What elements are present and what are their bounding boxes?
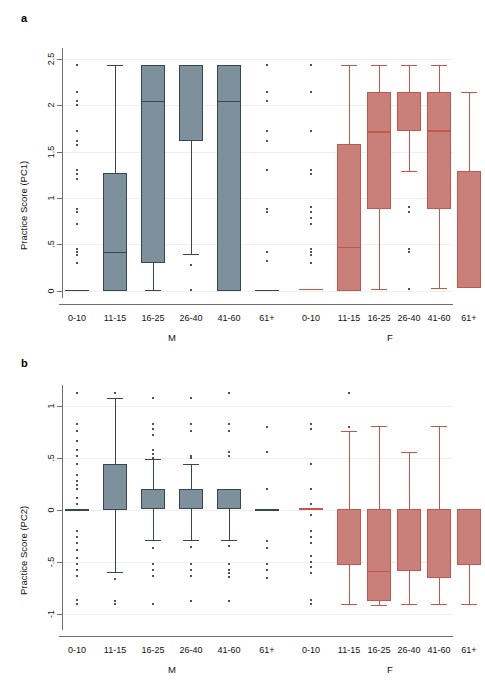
- panel-a-label: a: [21, 12, 27, 24]
- outlier-point: [76, 530, 78, 532]
- outlier-point: [76, 440, 78, 442]
- whisker-cap-lower: [401, 171, 417, 172]
- outlier-point: [76, 430, 78, 432]
- outlier-point: [152, 428, 154, 430]
- group-label: M: [152, 664, 192, 675]
- whisker-cap-lower: [431, 288, 447, 289]
- outlier-point: [228, 576, 230, 578]
- whisker-lower: [115, 510, 116, 572]
- outlier-point: [310, 463, 312, 465]
- outlier-point: [76, 223, 78, 225]
- outlier-point: [408, 206, 410, 208]
- outlier-point: [310, 514, 312, 516]
- outlier-point: [76, 497, 78, 499]
- whisker-cap-lower: [341, 604, 357, 605]
- outlier-point: [310, 206, 312, 208]
- outlier-point: [310, 566, 312, 568]
- gridline: [63, 562, 453, 563]
- outlier-point: [76, 173, 78, 175]
- outlier-point: [310, 423, 312, 425]
- y-tick-label: .5: [46, 230, 57, 258]
- outlier-point: [228, 545, 230, 547]
- outlier-point: [310, 488, 312, 490]
- outlier-point: [408, 248, 410, 250]
- y-tick-label: -.5: [46, 548, 57, 576]
- outlier-point: [76, 251, 78, 253]
- box-body: [217, 65, 241, 291]
- outlier-point: [152, 457, 154, 459]
- median-line: [367, 571, 391, 572]
- gridline: [63, 406, 453, 407]
- box-body: [141, 489, 165, 509]
- outlier-point: [76, 392, 78, 394]
- panel-b-y-axis-title: Practice Score (PC2): [18, 506, 29, 595]
- outlier-point: [228, 572, 230, 574]
- y-tick-label: 1: [46, 184, 57, 212]
- outlier-point: [310, 262, 312, 264]
- y-axis-line: [62, 48, 63, 298]
- outlier-point: [152, 563, 154, 565]
- whisker-upper: [349, 431, 350, 509]
- outlier-point: [76, 178, 78, 180]
- box-body: [397, 509, 421, 571]
- whisker-lower: [229, 509, 230, 540]
- whisker-lower: [439, 209, 440, 288]
- whisker-upper: [379, 426, 380, 509]
- gridline: [63, 458, 453, 459]
- whisker-cap-lower: [183, 254, 199, 255]
- box-body: [103, 173, 127, 291]
- group-label: F: [370, 332, 410, 343]
- box-body: [427, 92, 451, 210]
- outlier-point: [310, 428, 312, 430]
- x-axis-line: [59, 304, 453, 305]
- outlier-point: [228, 455, 230, 457]
- whisker-cap-upper: [341, 431, 357, 432]
- outlier-point: [228, 430, 230, 432]
- outlier-point: [310, 603, 312, 605]
- outlier-point: [76, 536, 78, 538]
- outlier-point: [114, 578, 116, 580]
- outlier-point: [76, 563, 78, 565]
- whisker-cap-lower: [145, 540, 161, 541]
- outlier-point: [190, 457, 192, 459]
- outlier-point: [114, 392, 116, 394]
- whisker-cap-lower: [107, 572, 123, 573]
- y-tick-label: -1: [46, 600, 57, 628]
- outlier-point: [266, 547, 268, 549]
- outlier-point: [76, 474, 78, 476]
- whisker-lower: [191, 141, 192, 254]
- whisker-cap-lower: [371, 605, 387, 606]
- y-tick-label: 2: [46, 91, 57, 119]
- x-tick-label: 61+: [245, 645, 289, 655]
- box-body: [179, 65, 203, 141]
- box-body: [457, 171, 481, 288]
- y-tick-mark: [57, 614, 63, 615]
- y-tick-label: 2.5: [46, 45, 57, 73]
- y-tick-mark: [57, 198, 63, 199]
- outlier-point: [76, 449, 78, 451]
- outlier-point: [266, 208, 268, 210]
- outlier-point: [76, 569, 78, 571]
- outlier-point: [190, 546, 192, 548]
- outlier-point: [76, 211, 78, 213]
- outlier-point: [266, 569, 268, 571]
- outlier-point: [310, 555, 312, 557]
- y-tick-label: 0: [46, 496, 57, 524]
- gridline: [63, 152, 453, 153]
- outlier-point: [228, 392, 230, 394]
- box-body: [427, 509, 451, 578]
- y-tick-mark: [57, 562, 63, 563]
- x-axis-line: [59, 636, 453, 637]
- y-tick-label: 1: [46, 392, 57, 420]
- outlier-point: [266, 488, 268, 490]
- whisker-cap-upper: [183, 464, 199, 465]
- y-tick-label: .5: [46, 444, 57, 472]
- median-line: [217, 101, 241, 102]
- group-label: M: [152, 332, 192, 343]
- outlier-point: [266, 426, 268, 428]
- outlier-point: [152, 449, 154, 451]
- outlier-point: [190, 563, 192, 565]
- whisker-lower: [349, 565, 350, 604]
- whisker-upper: [409, 65, 410, 92]
- box-body: [179, 489, 203, 509]
